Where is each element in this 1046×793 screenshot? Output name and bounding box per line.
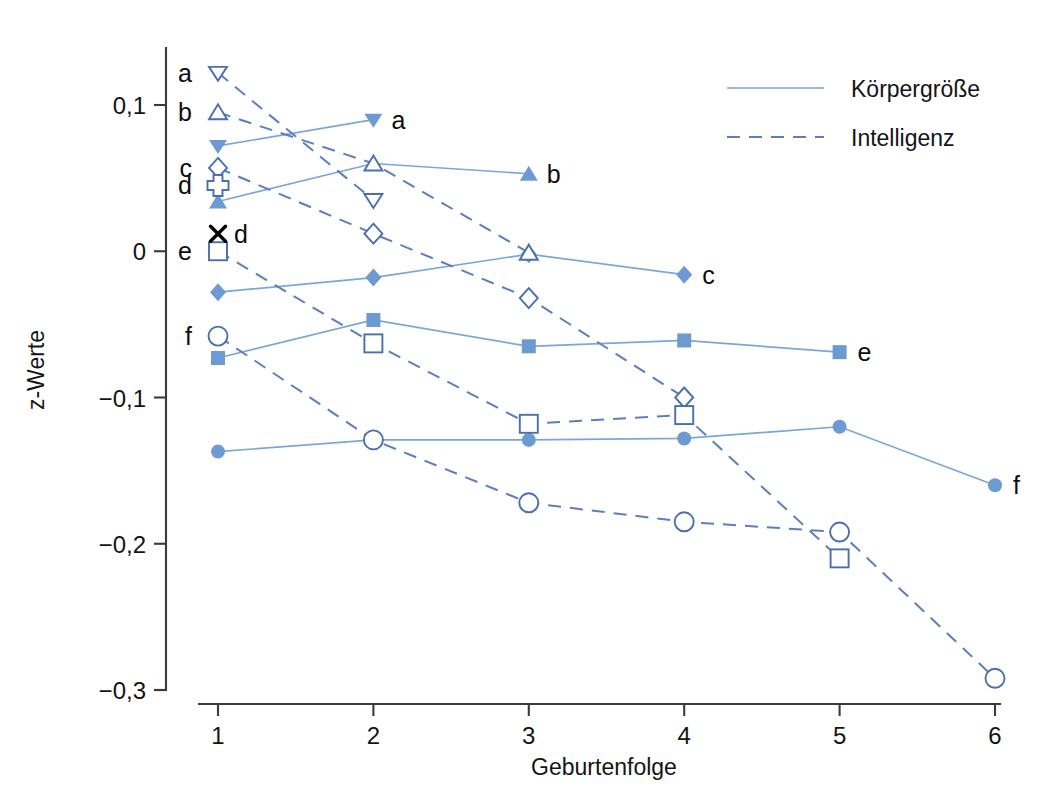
legend-label-1: Körpergröße	[851, 76, 980, 102]
left-series-label-e: e	[178, 237, 192, 265]
marker-circle-open	[364, 430, 383, 449]
marker-circle-filled	[833, 420, 847, 434]
marker-square-open	[675, 406, 693, 424]
x-axis-tick-label: 5	[833, 722, 846, 749]
left-series-label-d: d	[178, 171, 192, 199]
marker-diamond-open	[520, 288, 538, 308]
y-axis-tick-label: −0,2	[99, 531, 146, 558]
left-series-label-b: b	[178, 98, 192, 126]
marker-square-filled	[833, 345, 847, 359]
marker-diamond-open	[364, 224, 382, 244]
marker-square-open	[831, 549, 849, 567]
marker-circle-open	[986, 669, 1005, 688]
marker-circle-open	[830, 523, 849, 542]
chart-svg: 0,10−0,1−0,2−0,3123456Geburtenfolgez-Wer…	[0, 0, 1046, 793]
y-axis-title: z-Werte	[23, 330, 49, 410]
series-line-c-intelligenz	[218, 168, 684, 398]
series-line-a-koerper	[218, 120, 373, 146]
left-series-label-f: f	[185, 322, 192, 350]
marker-circle-filled	[211, 445, 225, 459]
marker-diamond-filled	[210, 283, 226, 301]
marker-square-filled	[522, 339, 536, 353]
marker-triangle-down-filled	[209, 140, 227, 154]
marker-triangle-up-open	[209, 104, 227, 119]
marker-triangle-down-open	[364, 194, 382, 208]
marker-circle-open	[519, 493, 538, 512]
annotation-label-d: d	[234, 220, 248, 248]
marker-square-open	[364, 334, 382, 352]
marker-triangle-up-open	[364, 156, 382, 171]
y-axis-tick-label: 0	[133, 238, 146, 265]
x-axis-tick-label: 6	[988, 722, 1001, 749]
marker-circle-filled	[522, 433, 536, 447]
marker-square-filled	[366, 313, 380, 327]
marker-square-filled	[677, 333, 691, 347]
x-axis-title: Geburtenfolge	[531, 754, 677, 780]
marker-cross-open	[208, 175, 229, 196]
x-axis-tick-label: 4	[678, 722, 691, 749]
marker-circle-open	[209, 327, 228, 346]
y-axis-tick-label: 0,1	[113, 92, 146, 119]
x-axis-tick-label: 1	[211, 722, 224, 749]
series-line-f-intelligenz	[218, 336, 995, 678]
series-line-a-intelligenz	[218, 73, 373, 200]
end-series-label-b: b	[547, 160, 561, 188]
end-series-label-e: e	[858, 338, 872, 366]
marker-diamond-filled	[365, 269, 381, 287]
end-series-label-c: c	[702, 261, 715, 289]
marker-square-filled	[211, 351, 225, 365]
y-axis-tick-label: −0,1	[99, 385, 146, 412]
legend-label-2: Intelligenz	[851, 125, 955, 151]
x-axis-tick-label: 2	[367, 722, 380, 749]
chart-figure: 0,10−0,1−0,2−0,3123456Geburtenfolgez-Wer…	[0, 0, 1046, 793]
end-series-label-a: a	[391, 106, 405, 134]
series-line-f-koerper	[218, 427, 995, 486]
left-series-label-a: a	[178, 59, 192, 87]
marker-square-open	[520, 415, 538, 433]
marker-triangle-up-open	[520, 245, 538, 260]
marker-diamond-open	[675, 388, 693, 408]
end-series-label-f: f	[1013, 471, 1020, 499]
x-axis-tick-label: 3	[522, 722, 535, 749]
marker-circle-filled	[677, 431, 691, 445]
marker-circle-filled	[988, 478, 1002, 492]
y-axis-tick-label: −0,3	[99, 677, 146, 704]
marker-diamond-filled	[676, 266, 692, 284]
series-line-c-koerper	[218, 254, 684, 292]
marker-square-open	[209, 242, 227, 260]
marker-circle-open	[675, 512, 694, 531]
